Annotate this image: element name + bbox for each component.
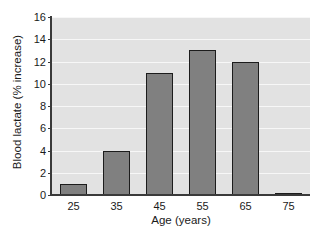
bar [189,50,216,195]
y-tick-label: 12 [34,56,46,68]
gridline [52,106,310,107]
bar [146,73,173,195]
gridline [52,84,310,85]
y-axis-title: Blood lactate (% increase) [8,4,26,200]
y-tick-label: 6 [40,122,46,134]
y-tick-label: 10 [34,78,46,90]
bar [232,62,259,196]
gridline [52,39,310,40]
x-tick-label: 65 [239,200,251,212]
x-axis-line [50,194,310,196]
x-tick-label: 55 [196,200,208,212]
y-tick-label: 16 [34,11,46,23]
x-axis-title: Age (years) [52,214,310,226]
gridline [52,173,310,174]
gridline [52,151,310,152]
bar [103,151,130,196]
gridline [52,17,310,18]
y-axis-line [50,16,52,196]
x-tick-label: 35 [110,200,122,212]
y-tick-label: 4 [40,145,46,157]
plot-area: 0246810121416 253545556575 [52,17,310,195]
x-tick-label: 25 [67,200,79,212]
x-tick-label: 75 [282,200,294,212]
y-tick-label: 2 [40,167,46,179]
gridline [52,62,310,63]
x-tick-label: 45 [153,200,165,212]
y-tick-label: 0 [40,189,46,201]
gridline [52,128,310,129]
y-tick-label: 14 [34,33,46,45]
y-tick-label: 8 [40,100,46,112]
bar-chart-figure: Blood lactate (% increase) 0246810121416… [0,0,326,236]
